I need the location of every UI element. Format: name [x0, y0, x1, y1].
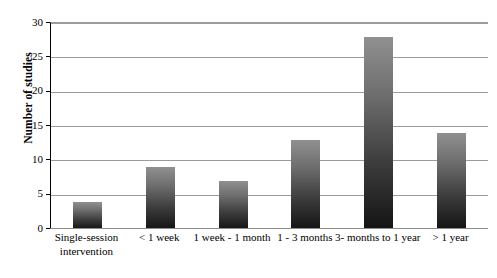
gridline: [51, 160, 488, 161]
bar-chart-figure: Number of studies 051015202530 Single-se…: [0, 0, 497, 278]
y-axis-tick-label: 15: [32, 120, 43, 131]
y-axis-tick-label: 5: [38, 188, 44, 199]
bar: [73, 202, 102, 229]
gridline: [51, 92, 488, 93]
x-axis-tick-label: > 1 year: [407, 231, 494, 245]
gridline: [51, 195, 488, 196]
bar: [364, 37, 393, 229]
bar: [291, 140, 320, 229]
bar: [437, 133, 466, 229]
plot-area: [50, 22, 488, 229]
y-axis-tick-label: 10: [32, 154, 43, 165]
bar: [219, 181, 248, 229]
x-axis-line: [50, 228, 488, 229]
x-axis-tick-labels: Single-session intervention< 1 week1 wee…: [50, 231, 488, 278]
gridline: [51, 57, 488, 58]
gridline: [51, 23, 488, 24]
y-axis-tick-label: 30: [32, 17, 43, 28]
y-axis-tick-label: 20: [32, 85, 43, 96]
gridline: [51, 126, 488, 127]
bar: [146, 167, 175, 229]
y-axis-tick-label: 25: [32, 51, 43, 62]
